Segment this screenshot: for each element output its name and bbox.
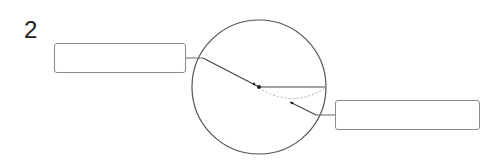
incoming-line: [203, 58, 259, 87]
angle-arc: [262, 88, 325, 99]
circle-diagram: [0, 0, 504, 160]
center-point: [257, 85, 261, 89]
arrow-marker-1: [253, 83, 256, 86]
outgoing-line: [290, 102, 316, 115]
left-label-box[interactable]: [54, 43, 186, 73]
arrow-marker-2: [291, 102, 294, 105]
right-label-box[interactable]: [335, 100, 480, 130]
